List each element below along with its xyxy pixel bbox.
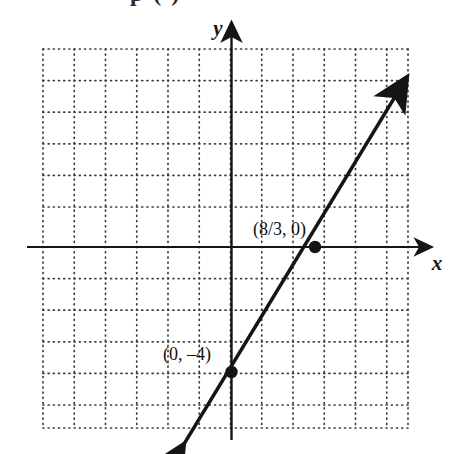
x-axis-label: x bbox=[431, 251, 443, 275]
graph-figure: — p ( ) bbox=[0, 0, 465, 454]
y-axis-label: y bbox=[210, 16, 223, 40]
coordinate-plane: x y (8/3, 0) (0, –4) bbox=[0, 0, 465, 454]
x-intercept-point bbox=[309, 241, 321, 253]
y-intercept-point bbox=[225, 366, 237, 378]
y-intercept-label: (0, –4) bbox=[163, 344, 211, 365]
x-intercept-label: (8/3, 0) bbox=[253, 219, 306, 240]
plotted-line bbox=[184, 77, 407, 444]
